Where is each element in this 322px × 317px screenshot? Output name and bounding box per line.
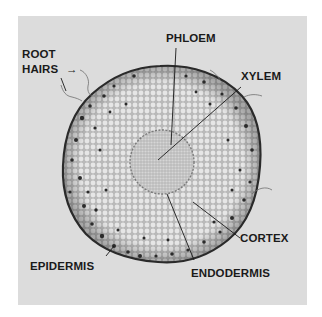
label-root-hairs-line2: HAIRS [22, 63, 58, 76]
label-epidermis: EPIDERMIS [30, 260, 94, 273]
arrow-right-icon: → [66, 63, 78, 76]
label-root-hairs-line1: ROOT [22, 48, 56, 61]
label-endodermis: ENDODERMIS [191, 267, 270, 280]
root-hairs-leader [61, 78, 66, 91]
label-xylem: XYLEM [241, 70, 281, 83]
stele [130, 130, 194, 194]
label-cortex: CORTEX [240, 232, 289, 245]
label-phloem: PHLOEM [166, 32, 216, 45]
